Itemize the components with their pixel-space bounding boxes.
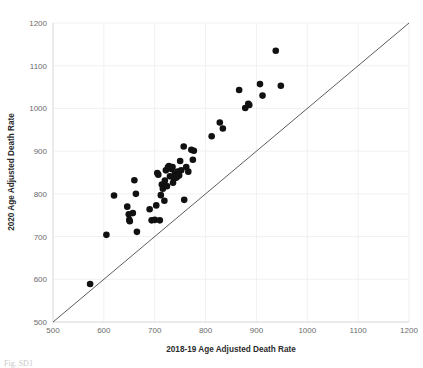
data-point: [272, 47, 279, 54]
data-point: [246, 102, 253, 109]
data-point: [185, 168, 192, 175]
data-point: [236, 87, 243, 94]
x-tick-label: 900: [250, 326, 264, 335]
data-points-group: [87, 47, 284, 287]
data-point: [181, 197, 188, 204]
data-point: [157, 217, 164, 224]
data-point: [259, 92, 266, 99]
data-point: [103, 232, 110, 239]
identity-line: [53, 23, 409, 322]
y-tick-label: 1200: [29, 19, 47, 28]
x-tick-label: 1100: [350, 326, 368, 335]
data-point: [220, 125, 227, 132]
identity-reference-line: [53, 23, 409, 322]
figure-caption: Fig. SD1: [4, 359, 33, 368]
y-tick-label: 1100: [30, 62, 48, 71]
x-tick-label: 1000: [298, 326, 316, 335]
x-axis-title: 2018-19 Age Adjusted Death Rate: [166, 345, 296, 354]
data-point: [161, 197, 168, 204]
data-point: [146, 206, 153, 213]
data-point: [153, 202, 160, 209]
data-point: [130, 210, 137, 217]
data-point: [208, 133, 215, 140]
data-point: [131, 177, 138, 184]
y-tick-label: 800: [34, 190, 48, 199]
y-axis-title: 2020 Age Adjusted Death Rate: [7, 113, 16, 231]
data-point: [191, 147, 198, 154]
x-tick-label: 700: [148, 326, 162, 335]
data-point: [217, 119, 224, 126]
y-tick-label: 900: [34, 147, 48, 156]
data-point: [87, 281, 94, 288]
data-point: [134, 229, 141, 236]
scatter-plot-figure: 500600700800900100011001200 500600700800…: [0, 0, 423, 368]
x-tick-label: 600: [97, 326, 111, 335]
data-point: [177, 158, 184, 165]
data-point: [190, 156, 197, 163]
plot-canvas: 500600700800900100011001200 500600700800…: [0, 0, 423, 368]
y-tick-label: 700: [34, 233, 48, 242]
y-tick-label: 1000: [29, 104, 47, 113]
x-tick-label: 500: [46, 326, 60, 335]
data-point: [133, 191, 140, 198]
y-tick-label: 500: [34, 318, 48, 327]
data-point: [124, 203, 131, 210]
data-point: [126, 218, 133, 225]
data-point: [158, 192, 165, 199]
x-tick-label: 800: [199, 326, 213, 335]
y-axis-tick-labels: 500600700800900100011001200: [29, 19, 47, 327]
data-point: [169, 164, 176, 171]
x-tick-label: 1200: [400, 326, 418, 335]
data-point: [257, 81, 264, 88]
data-point: [111, 192, 118, 199]
data-point: [164, 183, 171, 190]
y-tick-label: 600: [34, 275, 48, 284]
data-point: [155, 171, 162, 178]
data-point: [180, 143, 187, 150]
x-axis-tick-labels: 500600700800900100011001200: [46, 326, 418, 335]
data-point: [278, 82, 285, 89]
